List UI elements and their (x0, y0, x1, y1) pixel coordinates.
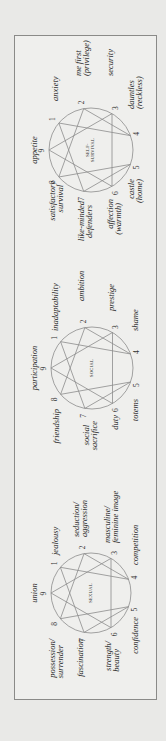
point-number-3: 3 (111, 106, 120, 110)
point-number-2: 2 (78, 545, 87, 549)
label-shame: shame (131, 309, 139, 331)
point-number-2: 2 (79, 319, 88, 323)
point-number-9: 9 (39, 592, 48, 596)
label-fascination: fascination (76, 639, 84, 695)
label-duty: duty (111, 415, 119, 441)
point-number-2: 2 (77, 101, 86, 105)
label-competition: competition (131, 525, 139, 565)
label-home: (home) (135, 179, 143, 221)
label-aggression: aggression (80, 500, 88, 537)
point-number-7: 7 (79, 414, 88, 418)
label-appetite: appetite (30, 130, 38, 170)
point-number-5: 5 (130, 608, 139, 612)
center-label-self: SELF- SURVIVAL (85, 130, 95, 170)
point-number-1: 1 (50, 336, 59, 340)
label-privilege: (privilege) (82, 40, 90, 76)
point-number-6: 6 (111, 408, 120, 412)
label-warmth: (warmth) (114, 203, 122, 245)
point-number-4: 4 (130, 576, 139, 580)
triangle-sexual (51, 558, 111, 627)
point-number-5: 5 (132, 166, 141, 170)
label-security: security (106, 49, 114, 76)
label-surrender: surrender (56, 645, 64, 691)
point-number-5: 5 (132, 383, 141, 387)
label-prestige: prestige (107, 284, 115, 311)
label-participation: participation (30, 338, 38, 398)
label-ambition: ambition (77, 271, 85, 301)
point-number-3: 3 (110, 551, 119, 555)
label-friendship: friendship (52, 409, 60, 461)
rotated-page: 123456789123456789123456789 SEXUAL union… (0, 0, 166, 741)
triangle-self-survival (49, 114, 112, 187)
point-number-9: 9 (39, 367, 48, 371)
label-totems: totems (131, 399, 139, 441)
label-confidence: confidence (131, 617, 139, 669)
point-number-1: 1 (48, 117, 57, 121)
point-number-6: 6 (111, 191, 120, 195)
point-number-4: 4 (132, 350, 141, 354)
hexad-social (61, 328, 131, 409)
label-union: union (30, 573, 38, 613)
enneagram-figures (0, 0, 166, 741)
center-label-self-line2: SURVIVAL (90, 138, 95, 162)
point-number-6: 6 (110, 632, 119, 636)
point-number-4: 4 (132, 132, 141, 136)
center-label-social: SOCIAL (89, 353, 94, 383)
label-feminine-image: feminine image (111, 491, 119, 543)
label-survival: survival (56, 185, 64, 235)
point-number-8: 8 (50, 398, 59, 402)
point-number-8: 8 (50, 622, 59, 626)
label-anxiety: anxiety (51, 76, 59, 101)
label-inadaptability: inadaptability (51, 283, 59, 331)
label-sacrifice: sacrifice (90, 421, 98, 461)
point-number-1: 1 (50, 562, 59, 566)
label-beauty: beauty (112, 649, 120, 681)
label-jealousy: jealousy (51, 527, 59, 555)
center-label-sexual: SEXUAL (88, 578, 93, 608)
point-number-3: 3 (111, 325, 120, 329)
label-defenders: defenders (85, 205, 93, 261)
label-reckless: (reckless) (135, 76, 143, 109)
triangle-social (51, 332, 113, 403)
hexad-sexual (60, 554, 128, 633)
